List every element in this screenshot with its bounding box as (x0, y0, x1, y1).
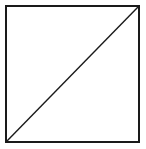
square-diagonal-figure (0, 0, 146, 149)
figure-canvas: Square divided by a diagonal A black-out… (0, 0, 146, 149)
